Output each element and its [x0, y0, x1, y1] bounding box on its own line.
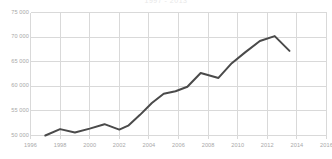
x-tick-label: 2016 — [320, 143, 332, 149]
line-chart: 1997 - 2013 50 00055 00060 00065 00070 0… — [0, 0, 332, 159]
x-tick-label: 2014 — [290, 143, 303, 149]
x-tick-label: 2002 — [113, 143, 126, 149]
x-tick-label: 2000 — [83, 143, 96, 149]
x-tick-label: 1998 — [54, 143, 67, 149]
x-tick-label: 2004 — [142, 143, 155, 149]
x-tick-label: 2008 — [202, 143, 215, 149]
x-tick-label: 2010 — [231, 143, 244, 149]
x-axis: 1996199820002002200420062008201020122014… — [0, 0, 332, 159]
x-tick-label: 1996 — [24, 143, 37, 149]
x-tick-label: 2006 — [172, 143, 185, 149]
x-tick-label: 2012 — [261, 143, 274, 149]
